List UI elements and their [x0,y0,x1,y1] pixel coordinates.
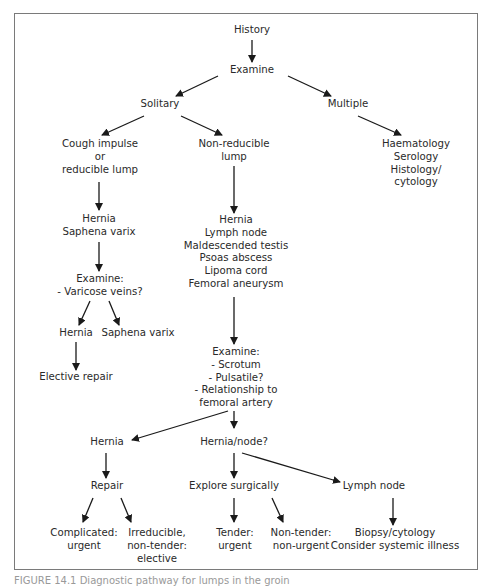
line: Saphena varix [62,226,135,239]
node-repair: Repair [91,480,124,493]
arrow-examine-hernia [79,301,90,325]
arrow-examine-saphena [109,301,119,325]
line: Examine: [195,346,278,359]
line: Lymph node [184,227,288,240]
node-explore-surgically: Explore surgically [189,480,279,493]
node-cough-impulse: Cough impulse or reducible lump [62,138,138,176]
node-non-tender: Non-tender: non-urgent [271,527,332,553]
line: Consider systemic illness [331,540,459,553]
node-hernia-left: Hernia [59,327,92,340]
arrow-explore-nontender [272,498,283,522]
line: Examine: [57,273,142,286]
node-non-reducible: Non-reducible lump [198,138,269,164]
line: Femoral aneurysm [184,278,288,291]
line: cytology [382,176,450,189]
node-solitary: Solitary [141,98,180,111]
line: - Pulsatile? [195,372,278,385]
arrow-examine-solitary [176,76,218,96]
line: or [62,151,138,164]
line: Serology [382,151,450,164]
arrow-repair-complicated [83,498,93,522]
line: reducible lump [62,164,138,177]
line: - Varicose veins? [57,286,142,299]
node-differential: Hernia Lymph node Maldescended testis Ps… [184,214,288,291]
node-hernia-node: Hernia/node? [200,436,268,449]
arrow-examine-multiple [288,76,331,96]
node-elective-repair: Elective repair [39,371,112,384]
line: femoral artery [195,397,278,410]
line: Histology/ [382,164,450,177]
line: Maldescended testis [184,240,288,253]
line: Non-reducible [198,138,269,151]
arrow-hernianode-lymph [242,453,340,482]
node-irreducible: Irreducible, non-tender: elective [127,527,187,565]
node-examine: Examine [230,64,274,77]
node-tender: Tender: urgent [216,527,253,553]
arrow-solitary-nonreducible [181,116,222,135]
line: non-tender: [127,540,187,553]
node-biopsy: Biopsy/cytology Consider systemic illnes… [331,527,459,553]
node-examine-scrotum: Examine: - Scrotum - Pulsatile? - Relati… [195,346,278,410]
line: Biopsy/cytology [331,527,459,540]
line: Haematology [382,138,450,151]
line: Psoas abscess [184,252,288,265]
node-hernia-saphena: Hernia Saphena varix [62,213,135,239]
node-multiple-tests: Haematology Serology Histology/ cytology [382,138,450,189]
line: Complicated: [50,527,117,540]
line: elective [127,553,187,566]
line: urgent [50,540,117,553]
line: lump [198,151,269,164]
line: Hernia [184,214,288,227]
arrow-multiple-tests [358,116,401,135]
arrow-repair-irreducible [121,498,131,522]
node-complicated: Complicated: urgent [50,527,117,553]
line: - Relationship to [195,384,278,397]
node-saphena-varix: Saphena varix [101,327,174,340]
line: Non-tender: [271,527,332,540]
node-multiple: Multiple [328,98,368,111]
line: Irreducible, [127,527,187,540]
node-lymph-node: Lymph node [343,480,405,493]
line: Cough impulse [62,138,138,151]
line: non-urgent [271,540,332,553]
node-examine-varicose: Examine: - Varicose veins? [57,273,142,299]
line: - Scrotum [195,359,278,372]
line: Tender: [216,527,253,540]
line: urgent [216,540,253,553]
node-hernia-mid: Hernia [90,436,123,449]
line: Lipoma cord [184,265,288,278]
line: Hernia [62,213,135,226]
arrow-solitary-cough [102,116,144,135]
figure-caption: FIGURE 14.1 Diagnostic pathway for lumps… [14,575,290,587]
node-history: History [234,24,270,37]
